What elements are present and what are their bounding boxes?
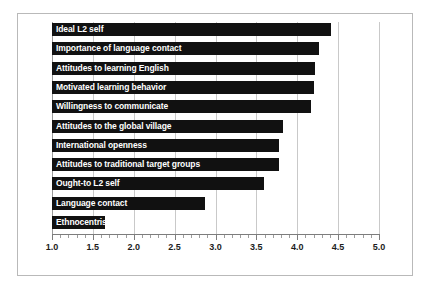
- tick-minor: [330, 235, 331, 238]
- bar-label: Motivated learning behavior: [56, 81, 166, 94]
- x-tick-label: 3.0: [201, 242, 231, 252]
- bar-label: Language contact: [56, 197, 127, 210]
- x-tick-label: 1.0: [37, 242, 67, 252]
- tick-minor: [314, 235, 315, 238]
- bar-row: Ought-to L2 self: [52, 177, 379, 190]
- x-tick-label: 2.0: [119, 242, 149, 252]
- bar-label: Ethnocentrism: [56, 216, 114, 229]
- tick-minor: [363, 235, 364, 238]
- bar-row: Attitudes to the global village: [52, 120, 379, 133]
- tick-minor: [150, 235, 151, 238]
- tick-major: [175, 235, 176, 240]
- bar-label: Attitudes to the global village: [56, 120, 171, 133]
- bar-row: Attitudes to learning English: [52, 62, 379, 75]
- tick-minor: [85, 235, 86, 238]
- bar-label: Ought-to L2 self: [56, 177, 120, 190]
- tick-minor: [183, 235, 184, 238]
- bar-series: Ideal L2 selfImportance of language cont…: [52, 22, 379, 234]
- tick-minor: [77, 235, 78, 238]
- tick-major: [256, 235, 257, 240]
- gridline-5: [379, 22, 380, 234]
- tick-minor: [158, 235, 159, 238]
- x-tick-label: 3.5: [241, 242, 271, 252]
- tick-minor: [371, 235, 372, 238]
- x-tick-label: 1.5: [78, 242, 108, 252]
- tick-major: [134, 235, 135, 240]
- bar-row: Ethnocentrism: [52, 216, 379, 229]
- plot-area: Ideal L2 selfImportance of language cont…: [52, 22, 379, 234]
- chart-frame: Ideal L2 selfImportance of language cont…: [17, 13, 413, 276]
- bar-row: Ideal L2 self: [52, 23, 379, 36]
- tick-minor: [126, 235, 127, 238]
- tick-minor: [240, 235, 241, 238]
- bar-row: Willingness to communicate: [52, 100, 379, 113]
- tick-major: [216, 235, 217, 240]
- bar-row: Motivated learning behavior: [52, 81, 379, 94]
- tick-minor: [265, 235, 266, 238]
- tick-minor: [60, 235, 61, 238]
- tick-minor: [142, 235, 143, 238]
- bar-label: Importance of language contact: [56, 42, 181, 55]
- tick-major: [297, 235, 298, 240]
- x-tick-label: 4.0: [282, 242, 312, 252]
- tick-minor: [273, 235, 274, 238]
- tick-minor: [68, 235, 69, 238]
- tick-minor: [101, 235, 102, 238]
- tick-minor: [289, 235, 290, 238]
- bar-label: International openness: [56, 139, 147, 152]
- x-tick-label: 5.0: [364, 242, 394, 252]
- bar-row: International openness: [52, 139, 379, 152]
- tick-minor: [207, 235, 208, 238]
- bar-row: Importance of language contact: [52, 42, 379, 55]
- tick-major: [338, 235, 339, 240]
- tick-major: [379, 235, 380, 240]
- bar-row: Attitudes to traditional target groups: [52, 158, 379, 171]
- tick-minor: [232, 235, 233, 238]
- tick-minor: [117, 235, 118, 238]
- bar-label: Attitudes to traditional target groups: [56, 158, 200, 171]
- tick-minor: [224, 235, 225, 238]
- tick-major: [93, 235, 94, 240]
- tick-minor: [354, 235, 355, 238]
- tick-minor: [322, 235, 323, 238]
- tick-minor: [109, 235, 110, 238]
- bar-label: Willingness to communicate: [56, 100, 168, 113]
- tick-major: [52, 235, 53, 240]
- tick-minor: [199, 235, 200, 238]
- x-tick-label: 4.5: [323, 242, 353, 252]
- tick-minor: [166, 235, 167, 238]
- tick-minor: [346, 235, 347, 238]
- tick-minor: [191, 235, 192, 238]
- tick-minor: [305, 235, 306, 238]
- bar-label: Ideal L2 self: [56, 23, 103, 36]
- bar-label: Attitudes to learning English: [56, 62, 169, 75]
- tick-minor: [281, 235, 282, 238]
- bar-row: Language contact: [52, 197, 379, 210]
- x-tick-label: 2.5: [160, 242, 190, 252]
- tick-minor: [248, 235, 249, 238]
